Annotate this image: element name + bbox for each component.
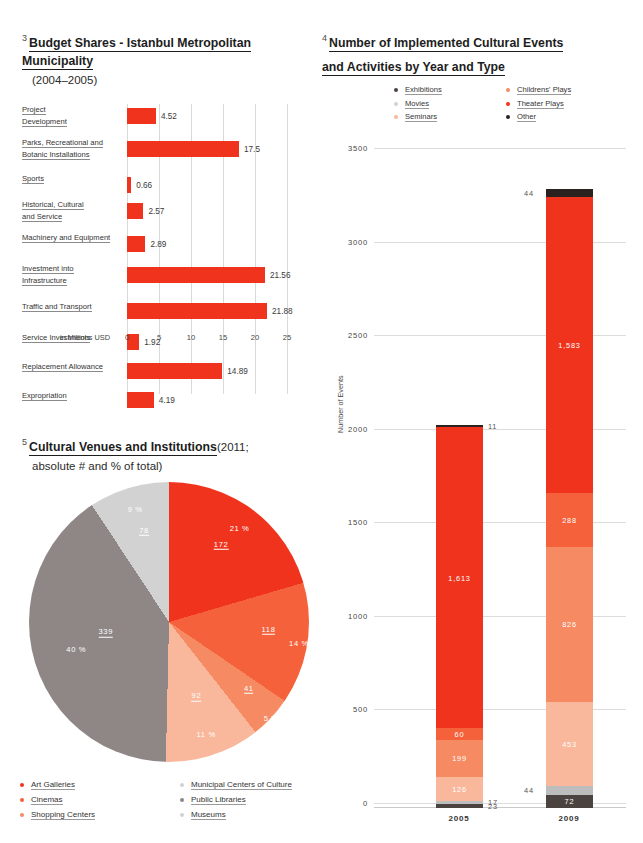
stack-legend-label: Childrens' Plays xyxy=(517,85,571,95)
pie-slice-value: 339 xyxy=(99,627,113,638)
figure-number: 3 xyxy=(22,33,27,43)
stack-segment-value-outside: 11 xyxy=(488,422,497,431)
pie-legend-item[interactable]: Museums xyxy=(180,810,340,820)
stack-segment-value: 453 xyxy=(546,739,593,748)
pie-slice-percent: 9 % xyxy=(128,505,143,514)
budget-chart-subtitle: (2004–2005) xyxy=(32,74,322,86)
budget-chart-heading: 3Budget Shares - Istanbul Metropolitan M… xyxy=(22,33,322,69)
pie-slice-value: 172 xyxy=(214,539,228,550)
budget-chart-x-axis: in Millions USD 0510152025 xyxy=(22,329,322,349)
stack-segment: 1,613 xyxy=(436,427,483,729)
pie-slice-value: 41 xyxy=(244,683,254,694)
pie-legend: Art GalleriesMunicipal Centers of Cultur… xyxy=(20,780,340,825)
pie-slice-value: 78 xyxy=(139,526,149,537)
legend-dot-icon xyxy=(20,783,24,787)
budget-bar-label: Parks, Recreational andBotanic Installat… xyxy=(22,137,122,160)
stack-legend-item[interactable]: Childrens' Plays xyxy=(506,85,618,95)
budget-axis-tick: 0 xyxy=(125,333,129,342)
stack-chart-title-line2: and Activities by Year and Type xyxy=(322,60,505,76)
stack-segment-value: 72 xyxy=(546,797,593,806)
pie-legend-item[interactable]: Public Libraries xyxy=(180,795,340,805)
stack-plot-area: 0500100015002000250030003500231711126199… xyxy=(374,148,626,808)
budget-axis-tick: 25 xyxy=(283,333,291,342)
stack-chart-title-line2-wrap: and Activities by Year and Type xyxy=(322,57,640,75)
budget-bar xyxy=(127,392,154,408)
budget-chart-plot-area: ProjectDevelopment4.52Parks, Recreationa… xyxy=(22,104,322,394)
legend-dot-icon xyxy=(180,813,184,817)
budget-bar-value: 21.88 xyxy=(272,307,293,316)
pie-legend-label: Municipal Centers of Culture xyxy=(191,780,292,790)
stack-segment-value: 60 xyxy=(436,730,483,739)
stack-legend-label: Movies xyxy=(405,99,429,109)
cultural-events-chart: 4Number of Implemented Cultural Events a… xyxy=(322,33,640,75)
budget-bar xyxy=(127,363,222,379)
stack-segment-value-outside: 44 xyxy=(524,786,534,795)
stack-segment: 199 xyxy=(436,740,483,777)
budget-bar-value: 14.89 xyxy=(227,367,248,376)
pie-chart-subtitle-b: absolute # and % of total) xyxy=(32,460,332,472)
stack-legend-label: Exhibitions xyxy=(405,85,442,95)
stack-segment xyxy=(436,804,483,808)
stack-segment-value: 199 xyxy=(436,754,483,763)
budget-bar-value: 17.5 xyxy=(244,145,260,154)
pie-chart-heading: 5Cultural Venues and Institutions(2011; xyxy=(22,437,332,455)
pie-slice-percent: 14 % xyxy=(289,638,309,647)
stack-segment-value: 126 xyxy=(436,784,483,793)
stack-x-label: 2005 xyxy=(449,814,470,823)
legend-dot-icon xyxy=(394,102,398,106)
stack-segment xyxy=(436,801,483,804)
stack-y-tick: 1500 xyxy=(348,518,368,527)
figure-number: 4 xyxy=(322,33,327,43)
budget-bar-value: 2.57 xyxy=(148,207,164,216)
budget-bar xyxy=(127,177,131,193)
budget-axis-tick: 10 xyxy=(187,333,195,342)
budget-bar xyxy=(127,203,143,219)
stack-segment: 288 xyxy=(546,493,593,547)
pie-legend-item[interactable]: Cinemas xyxy=(20,795,180,805)
stack-y-tick: 2500 xyxy=(348,331,368,340)
stack-legend-label: Theater Plays xyxy=(517,99,564,109)
stack-legend-item[interactable]: Exhibitions xyxy=(394,85,506,95)
stack-chart-title-line1: Number of Implemented Cultural Events xyxy=(329,36,563,52)
stack-segment xyxy=(546,189,593,197)
budget-axis-tick: 5 xyxy=(157,333,161,342)
legend-dot-icon xyxy=(394,88,398,92)
budget-bar-label: ProjectDevelopment xyxy=(22,104,122,127)
legend-dot-icon xyxy=(506,102,510,106)
budget-axis-tick: 15 xyxy=(219,333,227,342)
budget-bar-value: 2.89 xyxy=(150,240,166,249)
figure-number: 5 xyxy=(22,437,27,447)
pie-legend-label: Art Galleries xyxy=(31,780,75,790)
budget-bar-label: Sports xyxy=(22,173,122,185)
stack-legend-item[interactable]: Movies xyxy=(394,99,506,109)
pie-legend-item[interactable]: Shopping Centers xyxy=(20,810,180,820)
pie-slice-percent: 40 % xyxy=(66,644,86,653)
pie-legend-label: Shopping Centers xyxy=(31,810,95,820)
stack-segment xyxy=(436,425,483,427)
stack-legend-label: Other xyxy=(517,112,536,122)
pie-legend-item[interactable]: Municipal Centers of Culture xyxy=(180,780,340,790)
stack-legend-item[interactable]: Other xyxy=(506,112,618,122)
pie-slice-percent: 11 % xyxy=(197,729,216,738)
pie-legend-label: Public Libraries xyxy=(191,795,246,805)
stack-segment: 126 xyxy=(436,777,483,801)
pie-graphic-wrapper: 17221 %11814 %415 %9211 %33940 %789 % xyxy=(29,482,309,762)
pie-slice-percent: 5 % xyxy=(264,713,279,722)
stack-legend: ExhibitionsChildrens' PlaysMoviesTheater… xyxy=(394,85,624,126)
pie-legend-label: Cinemas xyxy=(31,795,63,805)
budget-bar-value: 4.52 xyxy=(161,112,177,121)
stack-chart-heading: 4Number of Implemented Cultural Events xyxy=(322,33,640,51)
stack-legend-item[interactable]: Seminars xyxy=(394,112,506,122)
pie-slice-value: 92 xyxy=(192,691,202,702)
stack-y-tick: 3500 xyxy=(348,144,368,153)
stack-legend-item[interactable]: Theater Plays xyxy=(506,99,618,109)
stack-segment: 72 xyxy=(546,795,593,808)
legend-dot-icon xyxy=(506,88,510,92)
budget-bar-label: Historical, Culturaland Service xyxy=(22,199,122,222)
budget-bar-value: 4.19 xyxy=(159,396,175,405)
pie-chart-subtitle-a: (2011; xyxy=(217,441,249,453)
stack-segment-value: 1,613 xyxy=(436,573,483,582)
pie-legend-item[interactable]: Art Galleries xyxy=(20,780,180,790)
stack-segment: 453 xyxy=(546,702,593,787)
budget-bar xyxy=(127,267,265,283)
